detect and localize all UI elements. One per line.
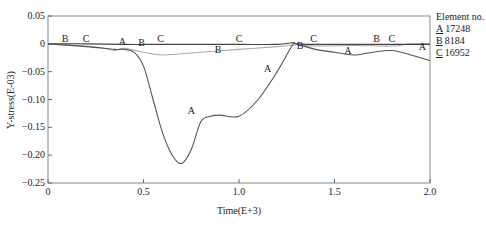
y-tick-label: −0.20 (22, 149, 45, 160)
legend-key: A (436, 23, 443, 34)
y-tick-label: −0.15 (22, 121, 45, 132)
legend-item-b: B8184 (436, 35, 484, 47)
legend-label: 17248 (445, 23, 470, 34)
y-tick-label: 0 (40, 38, 45, 49)
series-marker-label: C (157, 33, 164, 44)
x-tick-label: 0 (46, 186, 51, 197)
x-axis-label: Time(E+3) (217, 205, 261, 217)
series-a-line (48, 42, 430, 163)
series-marker-label: B (138, 37, 145, 48)
series-marker-label: C (388, 33, 395, 44)
legend-item-c: C16952 (436, 47, 484, 59)
chart-legend: Element no. A17248 B8184 C16952 (436, 11, 484, 59)
series-marker-label: C (310, 33, 317, 44)
x-tick-label: 1.0 (233, 186, 246, 197)
legend-key: C (436, 47, 443, 58)
y-tick-label: −0.10 (22, 94, 45, 105)
series-marker-label: B (297, 40, 304, 51)
y-axis-label: Y-stress(E-03) (5, 71, 17, 129)
series-b-line (48, 44, 430, 55)
legend-title: Element no. (436, 11, 484, 23)
legend-item-a: A17248 (436, 23, 484, 35)
series-marker-label: C (236, 33, 243, 44)
series-marker-label: A (344, 45, 352, 56)
x-tick-label: 2.0 (424, 186, 437, 197)
legend-key: B (436, 35, 443, 46)
line-chart: 00.51.01.52.00.050−0.05−0.10−0.15−0.20−0… (0, 0, 486, 226)
series-marker-label: A (119, 36, 127, 47)
x-tick-label: 1.5 (328, 186, 341, 197)
legend-label: 16952 (445, 47, 470, 58)
series-marker-label: A (188, 105, 196, 116)
y-tick-label: −0.25 (22, 177, 45, 188)
y-tick-label: −0.05 (22, 66, 45, 77)
x-tick-label: 0.5 (137, 186, 150, 197)
series-marker-label: A (264, 63, 272, 74)
series-marker-label: A (419, 41, 427, 52)
series-marker-label: B (62, 33, 69, 44)
series-marker-label: B (215, 44, 222, 55)
y-tick-label: 0.05 (28, 10, 46, 21)
series-marker-label: B (373, 33, 380, 44)
legend-label: 8184 (445, 35, 465, 46)
series-marker-label: C (83, 33, 90, 44)
chart-series (48, 42, 430, 163)
